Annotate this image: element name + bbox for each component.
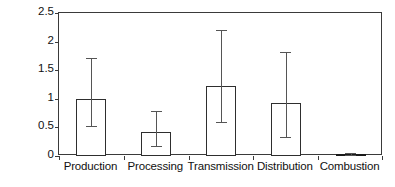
errorbar-cap-lower-transmission [216,122,227,123]
errorbar-cap-upper-production [86,58,97,59]
y-tick-mark-1 [55,127,59,128]
y-tick-mark-3 [55,70,59,71]
errorbar-cap-lower-distribution [280,137,291,138]
x-category-label-combustion: Combustion [317,160,382,173]
x-category-label-distribution: Distribution [252,160,317,173]
errorbar-stem-production [91,58,92,127]
y-tick-label-5: 2.5 [28,6,54,17]
y-tick-mark-2 [55,99,59,100]
x-tick-mark-5 [382,156,383,160]
y-tick-label-3: 1.5 [28,63,54,74]
y-tick-label-1: 0.5 [28,120,54,131]
y-tick-mark-5 [55,13,59,14]
errorbar-stem-processing [156,111,157,146]
errorbar-cap-upper-combustion [345,153,356,154]
errorbar-stem-distribution [286,52,287,137]
errorbar-cap-upper-transmission [216,30,227,31]
y-tick-label-2: 1 [28,92,54,103]
y-tick-label-4: 2 [28,35,54,46]
y-tick-label-0: 0 [28,149,54,160]
y-tick-mark-4 [55,42,59,43]
errorbar-cap-upper-distribution [280,52,291,53]
y-axis-tick-labels: 00.511.522.5 [24,0,54,187]
plot-area [58,12,382,155]
errorbar-stem-transmission [221,30,222,123]
x-category-label-transmission: Transmission [188,160,253,173]
errorbar-cap-lower-combustion [345,155,356,156]
x-category-label-production: Production [58,160,123,173]
errorbar-cap-lower-processing [151,146,162,147]
x-category-label-processing: Processing [123,160,188,173]
errorbar-cap-upper-processing [151,111,162,112]
methane-emissions-chart: Methane emissions (kg) 00.511.522.5 Prod… [0,0,395,187]
errorbar-cap-lower-production [86,126,97,127]
